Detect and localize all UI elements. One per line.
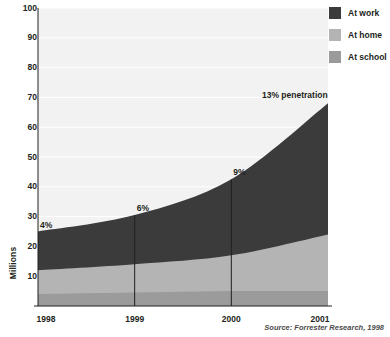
x-axis-tick-2000: 2000 <box>222 314 241 324</box>
legend-label-at-home: At home <box>348 29 382 41</box>
legend-label-at-school: At school <box>348 51 387 63</box>
x-axis-tick-1998: 1998 <box>37 314 56 324</box>
source-note: Source: Forrester Research, 1998 <box>264 323 384 332</box>
annotation-label-3: 13% penetration <box>262 90 328 100</box>
chart-legend: At work At home At school <box>329 7 387 73</box>
y-axis-tick-20: 20 <box>7 242 37 251</box>
y-axis-tick-30: 30 <box>7 212 37 221</box>
y-axis-tick-10: 10 <box>7 272 37 281</box>
annotation-label-1: 6% <box>137 203 149 213</box>
y-axis-tick-60: 60 <box>7 123 37 132</box>
legend-item-at-work: At work <box>329 7 387 19</box>
annotation-label-0: 4% <box>40 220 52 230</box>
chart-figure: Millions 102030405060708090100 199819992… <box>0 0 390 337</box>
y-axis-tick-80: 80 <box>7 63 37 72</box>
y-axis-tick-100: 100 <box>7 4 37 13</box>
legend-label-at-work: At work <box>348 7 379 19</box>
legend-item-at-school: At school <box>329 51 387 63</box>
y-axis-tick-50: 50 <box>7 153 37 162</box>
annotation-label-2: 9% <box>233 167 245 177</box>
legend-swatch-at-home <box>329 29 341 41</box>
y-axis-tick-90: 90 <box>7 33 37 42</box>
x-axis-tick-1999: 1999 <box>125 314 144 324</box>
legend-swatch-at-school <box>329 51 341 63</box>
y-axis-tick-40: 40 <box>7 182 37 191</box>
legend-item-at-home: At home <box>329 29 387 41</box>
y-axis-tick-70: 70 <box>7 93 37 102</box>
y-axis-tick-labels: 102030405060708090100 <box>4 0 37 337</box>
legend-swatch-at-work <box>329 7 341 19</box>
